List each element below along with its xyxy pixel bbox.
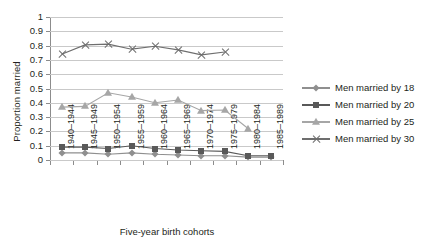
data-point — [58, 103, 66, 110]
data-point — [80, 40, 89, 49]
data-point — [174, 45, 183, 54]
data-point — [105, 146, 111, 152]
legend-marker-square-icon — [302, 99, 330, 111]
legend-item-2[interactable]: Men married by 25 — [302, 113, 414, 130]
y-axis-tick-label: 0.2 — [0, 126, 43, 135]
data-point — [221, 106, 229, 113]
y-axis-tick-label: 1 — [0, 12, 43, 21]
y-axis-tick-label: 0.1 — [0, 141, 43, 150]
series-lines — [50, 17, 283, 160]
y-axis-tick-label: 0.7 — [0, 55, 43, 64]
legend-marker-diamond-icon — [302, 82, 330, 94]
y-axis-tick-label: 0.5 — [0, 84, 43, 93]
data-point — [59, 144, 65, 150]
data-point — [174, 96, 182, 103]
y-axis-tick-label: 0.9 — [0, 26, 43, 35]
data-point — [198, 148, 204, 154]
data-point — [127, 45, 136, 54]
x-axis-tick — [50, 161, 51, 165]
legend-label: Men married by 20 — [335, 99, 414, 110]
data-point — [104, 40, 113, 49]
data-point — [129, 143, 135, 149]
data-point — [222, 148, 228, 154]
x-axis-title: Five-year birth cohorts — [50, 226, 284, 237]
legend-label: Men married by 25 — [335, 116, 414, 127]
y-axis-tick-label: 0.4 — [0, 98, 43, 107]
data-point — [57, 50, 66, 59]
data-point — [197, 50, 206, 59]
y-axis-tick-label: 0 — [0, 155, 43, 164]
data-point — [104, 89, 112, 96]
data-point — [82, 144, 88, 150]
y-axis-tick-label: 0.8 — [0, 41, 43, 50]
legend-item-1[interactable]: Men married by 20 — [302, 96, 414, 113]
data-point — [175, 147, 181, 153]
legend-label: Men married by 18 — [335, 82, 414, 93]
legend-item-0[interactable]: Men married by 18 — [302, 79, 414, 96]
legend-label: Men married by 30 — [335, 133, 414, 144]
legend-marker-triangle-icon — [302, 116, 330, 128]
data-point — [152, 146, 158, 152]
data-point — [220, 48, 229, 57]
series-line-0 — [62, 153, 272, 157]
data-point — [128, 93, 136, 100]
data-point — [245, 153, 251, 159]
chart-container: Proportion married 10.90.80.70.60.50.40.… — [0, 0, 424, 252]
y-axis-tick-label: 0.3 — [0, 112, 43, 121]
data-point — [81, 102, 89, 109]
data-point — [244, 124, 252, 131]
data-point — [268, 153, 274, 159]
data-point — [151, 99, 159, 106]
data-point — [150, 42, 159, 51]
legend-item-3[interactable]: Men married by 30 — [302, 130, 414, 147]
plot-area — [50, 17, 283, 160]
data-point — [197, 106, 205, 113]
y-axis-tick-label: 0.6 — [0, 69, 43, 78]
legend-marker-x-icon — [302, 133, 330, 145]
chart-legend: Men married by 18Men married by 20Men ma… — [302, 79, 414, 147]
